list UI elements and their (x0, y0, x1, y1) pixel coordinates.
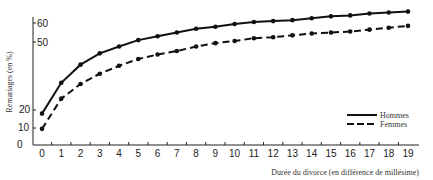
data-point-marker (367, 27, 372, 32)
data-point-marker (194, 26, 199, 31)
x-tick-label: 5 (136, 148, 142, 159)
x-tick-label: 4 (116, 148, 122, 159)
data-point-marker (117, 64, 122, 69)
line-chart: Remariages (en %) 60 50 20 10 0 01234567… (0, 0, 433, 180)
y-tick-label: 0 (17, 139, 23, 150)
legend-label: Femmes (380, 120, 407, 129)
series-hommes (40, 9, 411, 116)
data-point-marker (386, 25, 391, 30)
data-point-marker (59, 81, 64, 86)
data-point-marker (271, 35, 276, 40)
data-point-marker (136, 38, 141, 43)
data-point-marker (329, 14, 334, 19)
x-tick-label: 12 (268, 148, 280, 159)
data-point-marker (271, 19, 276, 24)
data-point-marker (136, 57, 141, 62)
data-point-marker (97, 51, 102, 56)
data-point-marker (348, 29, 353, 34)
x-tick-label: 3 (97, 148, 103, 159)
data-point-marker (252, 20, 257, 25)
x-tick-label: 15 (325, 148, 337, 159)
data-point-marker (290, 33, 295, 38)
x-tick-label: 18 (383, 148, 395, 159)
data-point-marker (309, 16, 314, 21)
data-point-marker (175, 30, 180, 35)
x-tick-label: 2 (78, 148, 84, 159)
x-tick-label: 11 (249, 148, 260, 159)
data-point-marker (367, 11, 372, 16)
x-tick-label: 16 (345, 148, 357, 159)
x-tick-label: 19 (402, 148, 414, 159)
x-tick-label: 6 (155, 148, 161, 159)
legend-item-femmes: Femmes (347, 120, 407, 129)
y-tick-label: 10 (18, 122, 30, 133)
data-point-marker (329, 30, 334, 35)
data-point-marker (59, 96, 64, 101)
x-tick-label: 9 (213, 148, 219, 159)
y-axis-title: Remariages (en %) (5, 51, 14, 113)
x-tick-label: 0 (39, 148, 45, 159)
data-point-marker (232, 22, 237, 27)
y-tick-label: 60 (37, 18, 49, 29)
x-tick-label: 14 (306, 148, 318, 159)
data-point-marker (406, 24, 411, 29)
legend-label: Hommes (380, 111, 409, 120)
x-tick-label: 8 (193, 148, 199, 159)
y-tick-label: 50 (37, 37, 49, 48)
data-point-marker (117, 44, 122, 49)
x-tick-label: 13 (287, 148, 299, 159)
data-point-marker (213, 41, 218, 46)
data-point-marker (386, 10, 391, 15)
data-point-marker (40, 111, 45, 116)
x-axis: 012345678910111213141516171819 (33, 142, 419, 159)
x-tick-label: 10 (229, 148, 241, 159)
data-point-marker (175, 49, 180, 54)
data-point-marker (309, 31, 314, 36)
x-tick-label: 7 (174, 148, 180, 159)
data-point-marker (213, 25, 218, 30)
data-point-marker (348, 13, 353, 18)
x-tick-label: 17 (364, 148, 376, 159)
series-layer (40, 9, 411, 131)
data-point-marker (97, 71, 102, 76)
y-tick-label: 20 (19, 104, 31, 115)
x-axis-title: Durée du divorce (en différence de millé… (271, 168, 419, 177)
data-point-marker (232, 39, 237, 44)
legend: Hommes Femmes (347, 111, 409, 129)
data-point-marker (155, 34, 160, 39)
data-point-marker (40, 127, 45, 132)
data-point-marker (194, 44, 199, 49)
x-tick-label: 1 (58, 148, 64, 159)
data-point-marker (78, 82, 83, 87)
data-point-marker (406, 9, 411, 14)
data-point-marker (290, 18, 295, 23)
data-point-marker (252, 36, 257, 41)
legend-item-hommes: Hommes (347, 111, 409, 120)
data-point-marker (78, 62, 83, 67)
data-point-marker (155, 52, 160, 57)
